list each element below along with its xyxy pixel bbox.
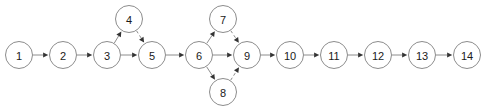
edge-8-to-9 bbox=[231, 67, 239, 80]
edge-line bbox=[137, 31, 142, 38]
edge-line bbox=[207, 67, 213, 76]
node-label: 10 bbox=[284, 50, 296, 62]
edge-13-to-14 bbox=[436, 52, 452, 57]
graph-node-2[interactable]: 2 bbox=[50, 42, 77, 69]
graph-node-13[interactable]: 13 bbox=[409, 42, 436, 69]
arrowhead-icon bbox=[227, 52, 232, 57]
graph-node-6[interactable]: 6 bbox=[186, 42, 213, 69]
graph-node-5[interactable]: 5 bbox=[139, 42, 166, 69]
graph-node-7[interactable]: 7 bbox=[210, 6, 237, 33]
arrowhead-icon bbox=[402, 52, 407, 57]
arrowhead-icon bbox=[234, 37, 239, 43]
graph-node-12[interactable]: 12 bbox=[365, 42, 392, 69]
node-label: 11 bbox=[328, 50, 339, 62]
arrowhead-icon bbox=[270, 52, 275, 57]
edge-2-to-3 bbox=[77, 52, 92, 57]
edge-3-to-4 bbox=[114, 32, 121, 44]
edge-6-to-8 bbox=[207, 67, 215, 80]
node-label: 7 bbox=[220, 14, 226, 26]
node-label: 13 bbox=[416, 50, 428, 62]
node-label: 14 bbox=[461, 50, 473, 62]
graph-node-10[interactable]: 10 bbox=[277, 42, 304, 69]
edge-6-to-7 bbox=[207, 31, 215, 43]
arrowhead-icon bbox=[179, 52, 184, 57]
edge-6-to-9 bbox=[213, 52, 232, 57]
arrowhead-icon bbox=[132, 52, 137, 57]
edge-3-to-5 bbox=[121, 52, 137, 57]
node-label: 5 bbox=[149, 50, 155, 62]
edge-line bbox=[231, 31, 236, 39]
graph-node-14[interactable]: 14 bbox=[454, 42, 481, 69]
graph-node-8[interactable]: 8 bbox=[210, 79, 237, 106]
arrowhead-icon bbox=[358, 52, 363, 57]
graph-node-11[interactable]: 11 bbox=[321, 42, 348, 69]
nodes-layer: 1234567891011121314 bbox=[6, 6, 481, 106]
arrowhead-icon bbox=[314, 52, 319, 57]
edge-10-to-11 bbox=[304, 52, 319, 57]
node-label: 3 bbox=[104, 50, 110, 62]
edge-9-to-10 bbox=[261, 52, 275, 57]
node-label: 1 bbox=[16, 50, 22, 62]
node-label: 6 bbox=[196, 50, 202, 62]
edge-1-to-2 bbox=[33, 52, 48, 57]
edge-line bbox=[207, 36, 212, 44]
edge-7-to-9 bbox=[231, 31, 239, 43]
graph-diagram: 1234567891011121314 bbox=[0, 0, 485, 110]
arrowhead-icon bbox=[234, 67, 239, 73]
arrowhead-icon bbox=[43, 52, 48, 57]
graph-node-4[interactable]: 4 bbox=[116, 6, 143, 33]
edge-12-to-13 bbox=[392, 52, 407, 57]
edge-line bbox=[114, 36, 118, 43]
edge-line bbox=[231, 72, 237, 81]
node-label: 8 bbox=[220, 87, 226, 99]
arrowhead-icon bbox=[447, 52, 452, 57]
node-label: 2 bbox=[60, 50, 66, 62]
edge-11-to-12 bbox=[348, 52, 363, 57]
node-label: 4 bbox=[126, 14, 132, 26]
arrowhead-icon bbox=[87, 52, 92, 57]
graph-node-3[interactable]: 3 bbox=[94, 42, 121, 69]
edge-5-to-6 bbox=[166, 52, 184, 57]
graph-node-9[interactable]: 9 bbox=[234, 42, 261, 69]
arrowhead-icon bbox=[139, 37, 144, 43]
node-label: 12 bbox=[372, 50, 384, 62]
arrowhead-icon bbox=[210, 74, 215, 80]
graph-node-1[interactable]: 1 bbox=[6, 42, 33, 69]
node-label: 9 bbox=[244, 50, 250, 62]
arrowhead-icon bbox=[210, 31, 215, 37]
edge-4-to-5 bbox=[137, 31, 145, 43]
